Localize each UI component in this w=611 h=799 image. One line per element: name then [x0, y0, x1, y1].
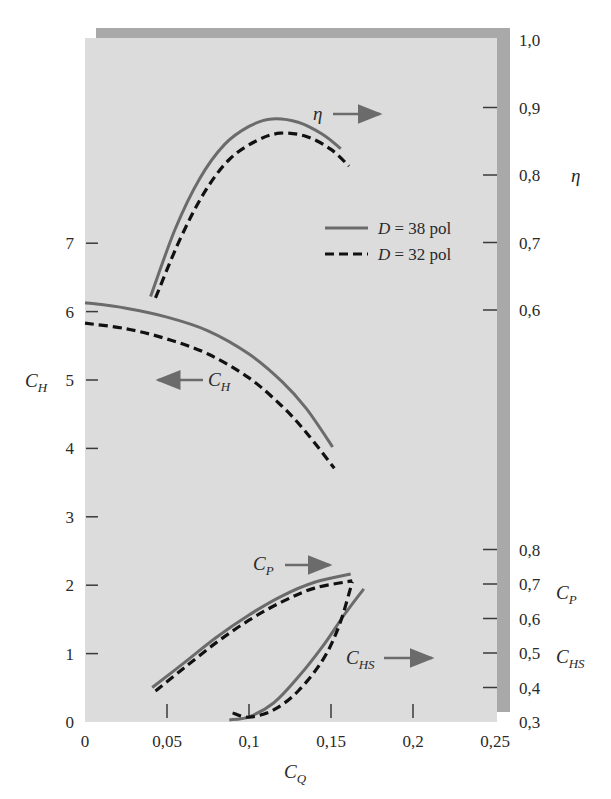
x-tick-label: 0,05	[152, 732, 182, 751]
cp-tick-label: 0,6	[519, 610, 540, 629]
left-tick-label: 2	[66, 576, 75, 595]
x-tick-label: 0,15	[316, 732, 346, 751]
frame-right-bar	[497, 28, 510, 712]
left-tick-label: 6	[66, 303, 75, 322]
x-tick-label: 0,1	[238, 732, 259, 751]
plot-area	[85, 38, 497, 722]
x-axis-label: CQ	[284, 761, 307, 786]
x-axis-tick-labels: 00,050,10,150,20,25	[81, 732, 510, 751]
right-eta-axis-label: η	[571, 165, 580, 186]
eta-tick-label: 0,7	[519, 234, 541, 253]
frame-top-bar	[96, 28, 510, 38]
legend-label-32: D = 32 pol	[377, 245, 452, 264]
left-tick-label: 5	[66, 371, 75, 390]
x-tick-label: 0,2	[402, 732, 423, 751]
cp-tick-label: 0,4	[519, 679, 541, 698]
right-chs-axis-label: CHS	[556, 646, 585, 671]
left-axis-label: CH	[25, 370, 48, 395]
cp-tick-label: 0,7	[519, 575, 541, 594]
eta-tick-label: 0,9	[519, 99, 540, 118]
eta-annotation: η	[313, 103, 322, 124]
left-tick-label: 7	[66, 234, 75, 253]
eta-tick-label: 0,8	[519, 166, 540, 185]
right-cp-axis-label: CP	[556, 582, 577, 607]
pump-performance-chart: 00,050,10,150,20,25 01234567 0,60,70,80,…	[0, 0, 611, 799]
eta-tick-label: 1,0	[519, 31, 540, 50]
cp-tick-label: 0,3	[519, 713, 540, 732]
eta-tick-label: 0,6	[519, 301, 540, 320]
left-tick-label: 3	[66, 508, 75, 527]
cp-tick-label: 0,5	[519, 644, 540, 663]
legend-label-38: D = 38 pol	[377, 219, 452, 238]
x-tick-label: 0,25	[480, 732, 510, 751]
left-tick-label: 4	[66, 439, 75, 458]
x-tick-label: 0	[81, 732, 90, 751]
left-tick-label: 0	[66, 713, 75, 732]
cp-tick-label: 0,8	[519, 541, 540, 560]
left-tick-label: 1	[66, 645, 75, 664]
